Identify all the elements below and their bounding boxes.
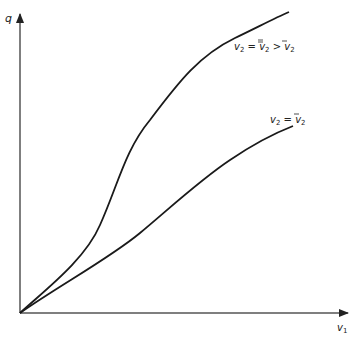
curve-upper: [20, 12, 289, 313]
y-axis-label: q: [5, 12, 12, 25]
svg-text:v2 = v2 > v2: v2 = v2 > v2: [234, 41, 295, 54]
x-axis-label: v1: [337, 322, 347, 335]
curve-lower: [20, 126, 293, 313]
svg-text:v2 = v2: v2 = v2: [270, 114, 306, 127]
diagram-canvas: q v1 v2 = v2 > v2 v2 = v2: [0, 0, 361, 338]
curve-lower-label: v2 = v2: [270, 114, 306, 127]
curve-upper-label: v2 = v2 > v2: [234, 40, 295, 54]
